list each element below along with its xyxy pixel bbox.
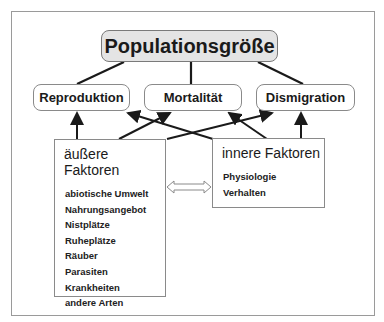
external-factors-heading: äußere Faktoren [55,140,165,178]
list-item: Ruheplätze [65,233,165,249]
line-dism-title [258,62,303,84]
list-item: andere Arten [65,295,165,311]
title-node: Populationsgröße [101,30,278,62]
internal-factors-box: innere Faktoren Physiologie Verhalten [212,138,325,208]
list-item: Parasiten [65,264,165,280]
internal-factors-heading: innere Faktoren [213,139,324,161]
node-dismigration: Dismigration [256,84,355,111]
node-reproduktion: Reproduktion [33,84,130,111]
node-mortalitaet: Mortalität [144,84,242,111]
node-label: Mortalität [164,90,223,105]
list-item: Nistplätze [65,217,165,233]
list-item: abiotische Umwelt [65,186,165,202]
title-label: Populationsgröße [105,35,275,58]
node-label: Reproduktion [39,90,124,105]
node-label: Dismigration [266,90,345,105]
bidirectional-arrow-icon [167,181,211,193]
arrow-outer-mort [119,113,170,139]
line-repro-title [77,62,124,84]
arrow-inner-mort [229,113,267,139]
arrow-inner-repro [128,113,213,139]
external-factors-box: äußere Faktoren abiotische Umwelt Nahrun… [54,139,166,297]
external-factors-list: abiotische Umwelt Nahrungsangebot Nistpl… [65,186,165,311]
list-item: Krankheiten [65,280,165,296]
arrow-outer-dism [167,113,272,139]
list-item: Physiologie [223,169,324,185]
list-item: Nahrungsangebot [65,202,165,218]
list-item: Räuber [65,248,165,264]
list-item: Verhalten [223,185,324,201]
internal-factors-list: Physiologie Verhalten [223,169,324,200]
